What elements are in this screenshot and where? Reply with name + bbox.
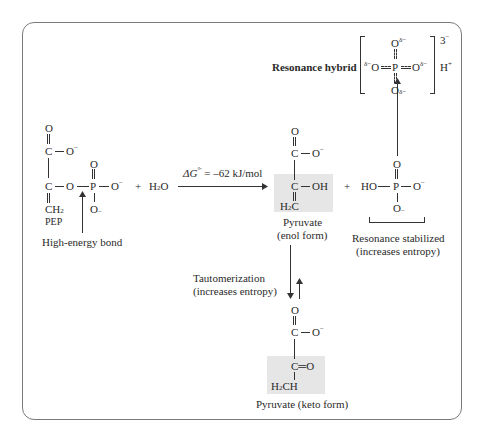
high-energy-arrow-line xyxy=(82,193,83,233)
partial-double-bond xyxy=(394,49,397,59)
double-bond xyxy=(47,193,50,203)
double-bond xyxy=(395,169,398,179)
arrowhead-down-icon xyxy=(287,293,294,299)
keto-o-minus: O− xyxy=(312,326,324,338)
pep-c2: C xyxy=(45,180,52,192)
keto-c1: C xyxy=(291,326,298,338)
single-bond xyxy=(55,151,64,152)
hybrid-o-right: Oδ− xyxy=(412,61,427,73)
high-energy-bond xyxy=(77,186,89,187)
double-bond xyxy=(293,137,296,146)
single-bond xyxy=(301,332,310,333)
keto-h2ch: H2CH xyxy=(271,380,298,392)
enol-o-top: O xyxy=(291,125,299,137)
enol-h2c: H2C xyxy=(280,200,299,212)
resonance-hybrid-label: Resonance hybrid xyxy=(272,61,357,73)
keto-label: Pyruvate (keto form) xyxy=(256,398,348,410)
tautomerization-label-line1: Tautomerization xyxy=(193,272,265,284)
single-bond xyxy=(94,193,95,202)
arrowhead-right-icon xyxy=(262,183,268,190)
single-bond xyxy=(294,372,295,380)
pep-o-p-bottom: O– xyxy=(90,203,101,215)
single-bond xyxy=(301,186,310,187)
plus-sign: + xyxy=(135,180,141,192)
single-bond xyxy=(378,186,390,187)
enol-label-line1: Pyruvate xyxy=(283,216,322,228)
pep-o-top: O xyxy=(45,122,53,134)
hybrid-p: P xyxy=(392,61,398,73)
pep-p: P xyxy=(90,180,96,192)
phosphate-ho: HO xyxy=(361,180,377,192)
single-bond xyxy=(99,186,109,187)
tautomerization-label-line2: (increases entropy) xyxy=(193,285,277,297)
single-bond xyxy=(294,339,295,359)
pep-ch2: CH2 xyxy=(45,203,64,215)
high-energy-bond-label: High-energy bond xyxy=(42,236,122,248)
hybrid-charge: 3− xyxy=(440,34,449,46)
single-bond xyxy=(397,193,398,202)
keto-o-top: O xyxy=(291,304,299,316)
phosphate-p: P xyxy=(393,180,399,192)
single-bond xyxy=(301,153,310,154)
hybrid-proton: H+ xyxy=(440,61,452,73)
arrowhead-up-icon xyxy=(79,191,86,197)
double-bond xyxy=(92,169,95,179)
single-bond xyxy=(294,160,295,180)
enol-c2: C xyxy=(291,180,298,192)
single-bond xyxy=(55,186,64,187)
water: H2O xyxy=(149,180,168,192)
double-bond xyxy=(293,316,296,325)
single-bond xyxy=(48,158,49,178)
hybrid-o-bottom: Oδ− xyxy=(391,84,406,96)
enol-oh: OH xyxy=(312,180,328,192)
pep-o-bridge: O xyxy=(66,180,74,192)
single-bond xyxy=(401,186,411,187)
partial-double-bond xyxy=(401,66,411,69)
arrowhead-up-icon xyxy=(296,278,303,284)
right-bracket xyxy=(430,36,435,94)
enol-o-minus: O− xyxy=(312,147,324,159)
double-bond xyxy=(47,134,50,144)
hybrid-o-left: δ−O xyxy=(364,61,379,73)
keto-c2-double-o: C═O xyxy=(291,360,314,372)
pep-o-p-right: O− xyxy=(111,180,123,192)
pep-c1: C xyxy=(45,145,52,157)
phosphate-o-right: O− xyxy=(413,180,425,192)
reaction-arrow-line xyxy=(178,186,264,187)
phosphate-o-bottom: O– xyxy=(393,202,404,214)
phosphate-underbracket xyxy=(369,217,425,223)
delta-g-label: ΔG°' = –62 kJ/mol xyxy=(183,167,262,179)
hybrid-o-top: Oδ− xyxy=(391,37,406,49)
partial-double-bond xyxy=(381,66,391,69)
plus-sign: + xyxy=(344,180,350,192)
partial-double-bond xyxy=(394,73,397,83)
tautomerization-forward-line xyxy=(290,245,291,295)
pep-label: PEP xyxy=(45,216,62,228)
enol-label-line2: (enol form) xyxy=(277,229,327,241)
phosphate-label-line2: (increases entropy) xyxy=(356,245,440,257)
phosphate-label-line1: Resonance stabilized xyxy=(352,232,445,244)
pep-o-minus: O− xyxy=(66,145,78,157)
enol-c1: C xyxy=(291,147,298,159)
